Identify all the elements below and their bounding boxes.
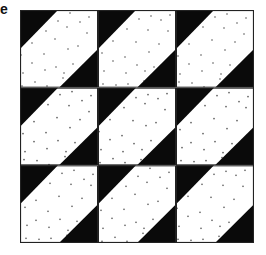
- figure-label: e: [0, 1, 8, 17]
- quilt-square: [176, 165, 254, 243]
- quilt-square: [176, 10, 254, 88]
- quilt-square: [98, 165, 176, 243]
- quilt-square: [98, 10, 176, 88]
- quilt-square: [20, 10, 98, 88]
- quilt-pattern: [20, 10, 254, 243]
- quilt-grid: [20, 10, 254, 243]
- quilt-square: [20, 165, 98, 243]
- quilt-square: [20, 88, 98, 166]
- quilt-square: [176, 88, 254, 166]
- quilt-square: [98, 88, 176, 166]
